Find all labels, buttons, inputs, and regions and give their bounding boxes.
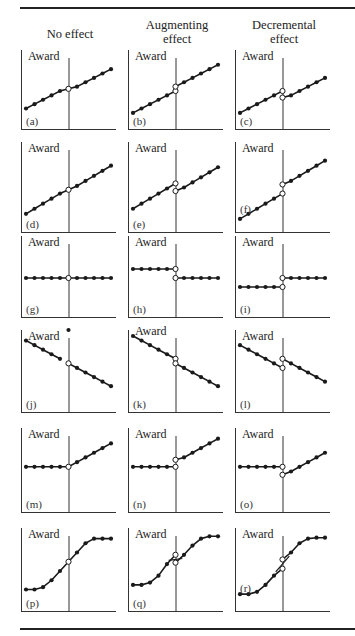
data-point <box>216 437 220 441</box>
panel-label: (q) <box>133 597 146 609</box>
data-point <box>156 574 160 578</box>
data-point <box>139 267 143 271</box>
data-point <box>323 380 327 384</box>
data-point <box>216 384 220 388</box>
panel-q: Award(q) <box>128 528 228 612</box>
panel-m: Award(m) <box>21 428 121 513</box>
data-point <box>92 76 96 80</box>
cutoff-open-marker <box>280 284 285 289</box>
data-point <box>165 465 169 469</box>
data-point <box>75 460 79 464</box>
cutoff-open-marker <box>280 356 285 361</box>
data-point <box>207 67 211 71</box>
data-point <box>49 93 53 97</box>
y-axis-label: Award <box>135 49 167 64</box>
data-point <box>199 175 203 179</box>
data-point <box>92 174 96 178</box>
data-point <box>66 328 70 332</box>
data-point <box>272 465 276 469</box>
data-point <box>156 191 160 195</box>
y-axis-label: Award <box>135 527 167 542</box>
data-point <box>83 370 87 374</box>
data-point <box>314 276 318 280</box>
data-point <box>49 578 53 582</box>
data-point <box>100 537 104 541</box>
data-point <box>263 202 267 206</box>
series-right <box>69 443 112 466</box>
cutoff-open-marker <box>173 464 178 469</box>
data-point <box>199 446 203 450</box>
series-right <box>283 78 326 98</box>
data-point <box>289 276 293 280</box>
data-point <box>49 352 53 356</box>
data-point <box>297 465 301 469</box>
data-point <box>41 276 45 280</box>
data-point <box>139 338 143 342</box>
panel-label: (o) <box>240 498 253 510</box>
panel-label: (h) <box>133 303 146 315</box>
series-right <box>283 161 326 185</box>
column-header-no-effect: No effect <box>20 27 120 41</box>
data-point <box>199 537 203 541</box>
data-point <box>58 276 62 280</box>
series-right <box>176 167 219 191</box>
series-right <box>69 166 112 190</box>
cutoff-open-marker <box>280 472 285 477</box>
data-point <box>272 361 276 365</box>
series-right <box>283 359 326 382</box>
panel-a: Award(a) <box>21 50 121 130</box>
data-point <box>199 375 203 379</box>
data-point <box>139 202 143 206</box>
data-point <box>32 102 36 106</box>
data-point <box>182 185 186 189</box>
cutoff-open-marker <box>173 181 178 186</box>
panel-label: (j) <box>26 398 36 410</box>
series-right <box>176 363 219 386</box>
data-point <box>109 276 113 280</box>
data-point <box>255 352 259 356</box>
data-point <box>41 202 45 206</box>
y-axis-label: Award <box>28 141 60 156</box>
panel-label: (l) <box>240 398 250 410</box>
y-axis-label: Award <box>242 141 274 156</box>
data-point <box>323 451 327 455</box>
series-right <box>283 453 326 475</box>
data-point <box>255 207 259 211</box>
data-point <box>148 465 152 469</box>
cutoff-open-marker <box>280 88 285 93</box>
data-point <box>246 285 250 289</box>
series-left <box>26 190 69 214</box>
panel-label: (k) <box>133 398 146 410</box>
y-axis-label: Award <box>242 235 274 250</box>
data-point <box>263 98 267 102</box>
data-point <box>289 93 293 97</box>
data-point <box>306 276 310 280</box>
panel-label: (i) <box>240 303 250 315</box>
data-point <box>148 580 152 584</box>
panel-l: Award(l) <box>235 330 335 413</box>
data-point <box>75 276 79 280</box>
y-axis-label: Award <box>135 427 167 442</box>
data-point <box>289 469 293 473</box>
data-point <box>323 276 327 280</box>
data-point <box>238 465 242 469</box>
panel-c: Award(c) <box>235 50 335 130</box>
data-point <box>58 465 62 469</box>
data-point <box>190 370 194 374</box>
data-point <box>24 465 28 469</box>
data-point <box>306 169 310 173</box>
cutoff-open-marker <box>280 191 285 196</box>
series-left <box>26 89 69 109</box>
panel-label: (d) <box>26 218 39 230</box>
data-point <box>246 465 250 469</box>
data-point <box>238 217 242 221</box>
series-right <box>69 539 112 562</box>
series-left <box>133 555 176 585</box>
data-point <box>148 197 152 201</box>
series-left <box>26 562 69 590</box>
panel-j: Award(j) <box>21 330 121 413</box>
y-axis-label: Award <box>28 235 60 250</box>
data-point <box>323 536 327 540</box>
data-point <box>314 455 318 459</box>
cutoff-open-marker <box>173 275 178 280</box>
